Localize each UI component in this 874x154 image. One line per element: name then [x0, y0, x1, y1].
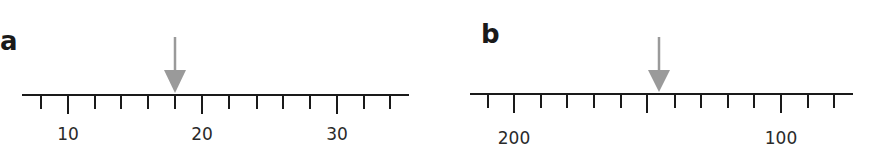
panel-label-a: a — [0, 28, 18, 54]
number-line-diagram — [0, 0, 874, 154]
tick-label: 30 — [326, 126, 348, 143]
down-arrow-icon — [648, 70, 670, 92]
panel-label-b: b — [481, 21, 500, 47]
tick-label: 10 — [57, 126, 79, 143]
tick-label: 100 — [765, 130, 797, 147]
tick-label: 200 — [498, 130, 530, 147]
tick-label: 20 — [191, 126, 213, 143]
down-arrow-icon — [164, 70, 186, 93]
